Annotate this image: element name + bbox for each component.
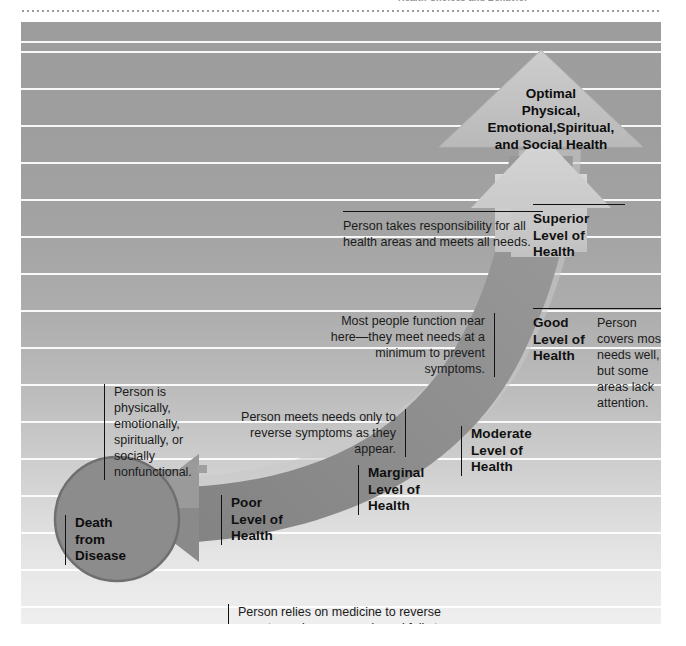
death-from-disease-label: Death from Disease [65, 515, 171, 565]
level-moderate-line-3: Health [471, 459, 567, 476]
callout-death: Person is physically, emotionally, spiri… [104, 384, 214, 480]
callout-superior: Person takes responsibility for all heal… [343, 211, 543, 250]
level-superior-line-3: Health [533, 244, 625, 261]
level-label-marginal: Marginal Level of Health [358, 465, 464, 515]
diagram-frame: Optimal Physical, Emotional,Spiritual, a… [21, 22, 661, 624]
dotted-divider [22, 10, 662, 12]
death-line-1: Death [75, 515, 171, 532]
callout-marginal: Person meets needs only to reverse sympt… [236, 409, 406, 457]
cropped-header-text: Health Choices and Behavior [398, 0, 668, 3]
level-label-moderate: Moderate Level of Health [461, 426, 567, 476]
level-superior-line-2: Level of [533, 228, 625, 245]
level-label-poor: Poor Level of Health [221, 495, 321, 545]
level-moderate-line-2: Level of [471, 443, 567, 460]
level-moderate-line-1: Moderate [471, 426, 567, 443]
optimal-line-1: Optimal [451, 85, 651, 102]
level-marginal-line-3: Health [368, 498, 464, 515]
level-poor-line-1: Poor [231, 495, 321, 512]
optimal-line-2: Physical, [451, 102, 651, 119]
level-label-superior: Superior Level of Health [533, 204, 625, 261]
level-poor-line-2: Level of [231, 512, 321, 529]
death-line-3: Disease [75, 548, 171, 565]
optimal-line-3: Emotional,Spiritual, [451, 119, 651, 136]
optimal-line-4: and Social Health [451, 136, 651, 153]
level-marginal-line-1: Marginal [368, 465, 464, 482]
callout-good: Person covers most needs well, but some … [597, 308, 661, 411]
level-marginal-line-2: Level of [368, 482, 464, 499]
level-poor-line-3: Health [231, 528, 321, 545]
callout-poor: Person relies on medicine to reverse sym… [228, 604, 468, 624]
optimal-health-label: Optimal Physical, Emotional,Spiritual, a… [451, 85, 651, 153]
level-superior-line-1: Superior [533, 211, 625, 228]
callout-moderate: Most people function near here—they meet… [327, 313, 495, 377]
death-line-2: from [75, 532, 171, 549]
